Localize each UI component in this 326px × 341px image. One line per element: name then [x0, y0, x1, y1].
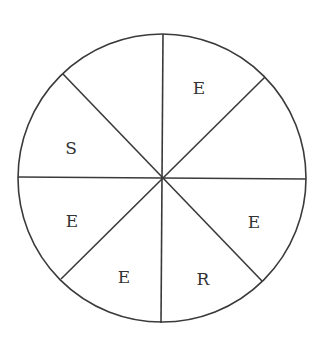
sector-label-left-lower: E: [66, 211, 78, 231]
sector-label-bottom-right: R: [197, 269, 211, 289]
sector-label-right-lower: E: [248, 212, 260, 232]
sector-label-top-right: E: [193, 78, 205, 98]
sector-label-bottom-left: E: [118, 267, 130, 287]
sector-dividers: [18, 34, 306, 323]
sector-label-left-upper: S: [65, 138, 77, 158]
spinner-wheel-diagram: E E R E E S: [0, 0, 326, 341]
